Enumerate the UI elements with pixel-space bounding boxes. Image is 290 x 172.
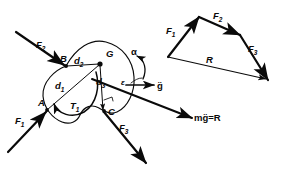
force-F1-arrow [8,112,46,152]
label-polygon-F1: F1 [166,25,176,38]
label-force-F2: F2 [36,39,46,52]
label-moment-T1: T1 [70,100,80,113]
label-point-C: C [108,106,115,117]
angle-epsilon-arc [131,78,142,83]
point-C-dot [102,109,106,113]
label-polygon-F2: F2 [213,10,223,23]
label-force-F3: F3 [119,122,129,135]
label-point-B: B [60,53,67,64]
force-F3-arrow [104,112,146,163]
right-angle-tick [104,97,113,101]
label-distance-d3: d3 [96,76,106,89]
label-distance-d1: d1 [55,80,65,93]
polygon-edge-R [168,57,266,79]
label-acceleration-gddot: g̈ [157,80,163,91]
point-B-dot [64,64,68,68]
label-polygon-R: R [206,54,213,65]
mechanics-diagram: A B C G F1 F2 F3 d1 d2 d3 T1 α ε g̈ [0,0,290,172]
label-point-G: G [106,48,114,59]
polygon-edge-F3 [240,35,268,80]
point-A-dot [45,108,49,112]
label-point-A: A [37,97,45,108]
label-resultant-equation: mg̈=R [194,112,221,123]
label-force-F1: F1 [15,115,25,128]
label-polygon-F3: F3 [248,43,258,56]
point-G-dot [97,61,102,66]
label-angular-acceleration-alpha: α [131,46,137,57]
label-distance-d2: d2 [74,55,84,68]
angular-acceleration-alpha-arc [137,56,145,79]
label-angle-epsilon: ε [121,78,125,87]
